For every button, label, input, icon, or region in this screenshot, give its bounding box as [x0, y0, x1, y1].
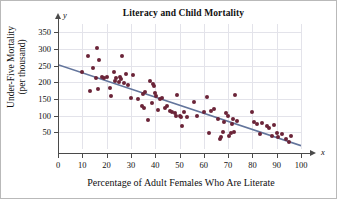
y-axis-variable-label: y	[63, 10, 67, 20]
y-axis-line	[58, 18, 59, 154]
x-axis-tick	[131, 153, 132, 158]
data-point	[80, 70, 84, 74]
data-point	[276, 135, 280, 139]
y-axis-tick-label: 100	[29, 112, 51, 120]
x-axis-tick	[277, 153, 278, 158]
data-point	[222, 120, 226, 124]
data-point	[108, 86, 112, 90]
data-point	[207, 131, 211, 135]
data-point	[124, 72, 128, 76]
y-axis-tick	[54, 99, 59, 100]
y-axis-title-line-2: (per thousand)	[17, 0, 28, 135]
data-point	[272, 123, 276, 127]
data-point	[95, 46, 99, 50]
gridline-vertical	[301, 24, 302, 149]
data-point	[221, 130, 225, 134]
data-point	[235, 119, 239, 123]
data-point	[250, 110, 254, 114]
data-point	[97, 58, 101, 62]
x-axis-tick	[58, 153, 59, 158]
y-axis-arrow-icon	[55, 13, 61, 19]
x-axis-arrow-icon	[310, 150, 316, 156]
x-axis-line	[58, 153, 311, 154]
data-point	[165, 104, 169, 108]
x-axis-tick	[82, 153, 83, 158]
data-point	[233, 93, 237, 97]
data-point	[142, 106, 146, 110]
data-point	[287, 140, 291, 144]
plot-area	[58, 24, 301, 149]
data-point	[202, 110, 206, 114]
data-point	[152, 84, 156, 88]
x-axis-tick	[228, 153, 229, 158]
y-axis-tick	[54, 49, 59, 50]
x-axis-tick-label: 10	[70, 160, 94, 170]
data-point	[150, 101, 154, 105]
data-point	[216, 117, 220, 121]
data-point	[86, 54, 90, 58]
y-axis-title: Under-Five Mortality (per thousand)	[6, 0, 28, 135]
y-axis-tick-label: 350	[29, 28, 51, 36]
x-axis-tick-label: 20	[95, 160, 119, 170]
data-point	[131, 73, 135, 77]
data-point	[91, 66, 95, 70]
data-point	[212, 107, 216, 111]
y-axis-tick-label: 250	[29, 62, 51, 70]
x-axis-tick	[107, 153, 108, 158]
y-axis-tick-label: 300	[29, 45, 51, 53]
data-point	[195, 114, 199, 118]
chart-title: Literacy and Child Mortality	[1, 8, 336, 18]
x-axis-tick	[301, 153, 302, 158]
x-axis-tick	[204, 153, 205, 158]
data-point	[267, 126, 271, 130]
data-point	[146, 118, 150, 122]
data-point	[122, 81, 126, 85]
data-point	[160, 96, 164, 100]
data-point	[112, 70, 116, 74]
data-point	[260, 121, 264, 125]
data-point	[143, 90, 147, 94]
data-point	[192, 100, 196, 104]
data-point	[182, 110, 186, 114]
data-point	[156, 108, 160, 112]
x-axis-tick-label: 40	[143, 160, 167, 170]
data-point	[232, 130, 236, 134]
x-axis-tick-label: 90	[265, 160, 289, 170]
data-point	[180, 124, 184, 128]
x-axis-tick	[180, 153, 181, 158]
data-point	[129, 96, 133, 100]
data-point	[258, 132, 262, 136]
data-point	[219, 135, 223, 139]
data-point	[120, 54, 124, 58]
data-point	[126, 83, 130, 87]
x-axis-tick-label: 70	[216, 160, 240, 170]
x-axis-variable-label: x	[321, 147, 325, 157]
data-points	[58, 24, 301, 149]
x-axis-tick-label: 30	[119, 160, 143, 170]
x-axis-tick	[155, 153, 156, 158]
data-point	[255, 122, 259, 126]
x-axis-tick-label: 60	[192, 160, 216, 170]
data-point	[96, 87, 100, 91]
y-axis-tick	[54, 66, 59, 67]
y-axis-tick-label: 200	[29, 78, 51, 86]
x-axis-tick-label: 100	[289, 160, 313, 170]
y-axis-tick	[54, 82, 59, 83]
x-axis-tick-label: 50	[168, 160, 192, 170]
data-point	[175, 93, 179, 97]
data-point	[185, 115, 189, 119]
data-point	[88, 89, 92, 93]
data-point	[230, 122, 234, 126]
y-axis-tick	[54, 32, 59, 33]
data-point	[270, 134, 274, 138]
y-axis-tick-label: 50	[29, 128, 51, 136]
data-point	[94, 76, 98, 80]
y-axis-tick	[54, 132, 59, 133]
x-axis-tick	[252, 153, 253, 158]
y-axis-tick	[54, 116, 59, 117]
data-point	[109, 94, 113, 98]
data-point	[289, 134, 293, 138]
data-point	[205, 95, 209, 99]
y-axis-title-line-1: Under-Five Mortality	[6, 0, 17, 135]
data-point	[280, 132, 284, 136]
